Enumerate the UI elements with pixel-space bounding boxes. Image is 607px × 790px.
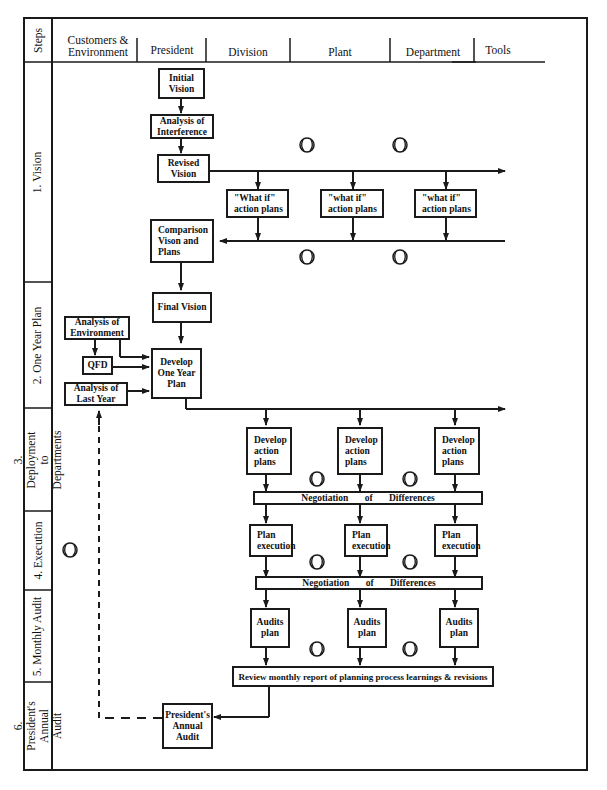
- develop-action-plans-division: Develop action plans: [246, 427, 292, 475]
- negotiation-bar-execution: Negotiation of Differences: [255, 576, 483, 590]
- audits-plan-department: Audits plan: [439, 608, 479, 648]
- plan-execution-department: Plan execution: [434, 524, 478, 557]
- step-vision: 1. Vision: [25, 62, 51, 282]
- pdca-icon: [393, 250, 407, 264]
- pdca-icon: [403, 642, 417, 656]
- pdca-icon: [403, 472, 417, 486]
- column-header-division: Division: [210, 46, 286, 58]
- pdca-icon: [310, 642, 324, 656]
- column-header-tools: Tools: [478, 44, 518, 56]
- step-one-year-plan: 2. One Year Plan: [25, 282, 51, 408]
- step-execution: 4. Execution: [25, 511, 51, 590]
- pdca-icon: [310, 555, 324, 569]
- analysis-environment-box: Analysis of Environment: [64, 316, 130, 340]
- pdca-icon: [403, 555, 417, 569]
- comparison-box: Comparison Vison and Plans: [150, 219, 214, 263]
- plan-execution-plant: Plan execution: [344, 524, 388, 557]
- what-if-plant-box: "what if" action plans: [320, 189, 384, 218]
- pdca-icon: [300, 250, 314, 264]
- pdca-icon: [63, 543, 77, 557]
- column-header-customers: Customers & Environment: [62, 34, 134, 58]
- steps-header: Steps: [25, 18, 51, 62]
- column-header-plant: Plant: [294, 46, 386, 58]
- what-if-department-box: "what if" action plans: [414, 189, 477, 218]
- qfd-box: QFD: [82, 356, 113, 375]
- plan-execution-division: Plan execution: [249, 524, 293, 557]
- review-monthly-report-bar: Review monthly report of planning proces…: [232, 666, 494, 687]
- audits-plan-plant: Audits plan: [347, 608, 387, 648]
- final-vision-box: Final Vision: [152, 292, 212, 323]
- negotiation-bar-deployment: Negotiation of Differences: [253, 491, 483, 505]
- revised-vision-box: Revised Vision: [157, 154, 210, 183]
- analysis-interference-box: Analysis of Interference: [150, 114, 214, 139]
- audits-plan-division: Audits plan: [250, 608, 290, 648]
- initial-vision-box: Initial Vision: [158, 68, 205, 99]
- step-deployment: 3. Deployment to Departments: [25, 408, 51, 511]
- develop-one-year-plan-box: Develop One Year Plan: [151, 348, 202, 399]
- pdca-icon: [300, 138, 314, 152]
- develop-action-plans-department: Develop action plans: [434, 427, 480, 475]
- column-header-president: President: [140, 44, 204, 56]
- step-annual-audit: 6. President's Annual Audit: [25, 682, 51, 770]
- presidents-annual-audit-box: President's Annual Audit: [162, 703, 213, 749]
- what-if-division-box: "What if" action plans: [226, 189, 289, 218]
- pdca-icon: [393, 138, 407, 152]
- analysis-last-year-box: Analysis of Last Year: [64, 382, 128, 406]
- column-header-department: Department: [394, 46, 472, 58]
- develop-action-plans-plant: Develop action plans: [337, 427, 383, 475]
- step-monthly-audit: 5. Monthly Audit: [25, 590, 51, 682]
- pdca-icon: [310, 472, 324, 486]
